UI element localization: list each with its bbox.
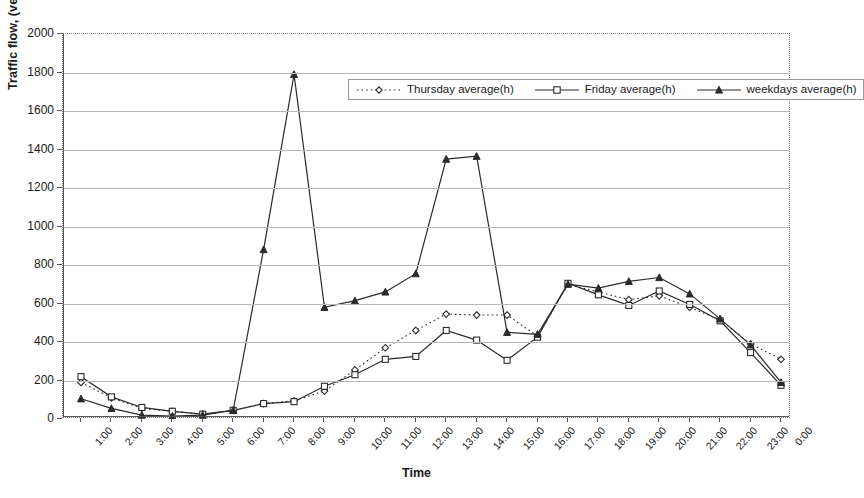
data-point	[443, 311, 450, 318]
y-tick-mark-400	[57, 341, 62, 342]
data-point	[382, 288, 389, 295]
x-tick-mark-17:00	[567, 418, 568, 422]
y-tick-mark-1600	[57, 110, 62, 111]
data-point	[778, 356, 785, 363]
x-tick-label-22:00: 22:00	[734, 425, 760, 452]
gridline-1000	[63, 227, 789, 228]
x-tick-label-9:00: 9:00	[336, 425, 358, 448]
legend-swatch-diamond-icon	[356, 84, 402, 96]
x-tick-mark-13:00	[445, 418, 446, 422]
legend-item-2: weekdays average(h)	[696, 83, 857, 96]
gridline-1600	[63, 111, 789, 112]
y-tick-label-0: 0	[10, 412, 54, 424]
y-tick-label-200: 200	[10, 374, 54, 386]
data-point	[78, 395, 85, 402]
legend-swatch-triangle-icon	[696, 84, 742, 96]
x-tick-mark-0:00	[780, 418, 781, 422]
x-tick-label-2:00: 2:00	[123, 425, 145, 448]
data-point	[260, 246, 267, 253]
legend-swatch-square-icon	[534, 84, 580, 96]
y-tick-label-1600: 1600	[10, 104, 54, 116]
y-tick-mark-1200	[57, 187, 62, 188]
gridline-600	[63, 304, 789, 305]
data-point	[291, 399, 297, 405]
x-tick-mark-23:00	[750, 418, 751, 422]
data-point	[443, 327, 449, 333]
data-point	[413, 353, 419, 359]
x-tick-mark-21:00	[689, 418, 690, 422]
x-tick-label-23:00: 23:00	[764, 425, 790, 452]
x-tick-mark-4:00	[171, 418, 172, 422]
x-tick-mark-15:00	[506, 418, 507, 422]
chart-legend: Thursday average(h)Friday average(h)week…	[348, 79, 864, 100]
y-tick-mark-1000	[57, 226, 62, 227]
x-tick-label-20:00: 20:00	[673, 425, 699, 452]
x-tick-mark-7:00	[263, 418, 264, 422]
x-axis-title: Time	[0, 466, 833, 480]
x-tick-label-13:00: 13:00	[460, 425, 486, 452]
x-tick-label-16:00: 16:00	[551, 425, 577, 452]
y-tick-label-600: 600	[10, 297, 54, 309]
y-tick-label-2000: 2000	[10, 27, 54, 39]
x-tick-mark-6:00	[232, 418, 233, 422]
x-tick-mark-10:00	[354, 418, 355, 422]
x-tick-mark-5:00	[202, 418, 203, 422]
x-tick-mark-12:00	[415, 418, 416, 422]
x-tick-label-14:00: 14:00	[490, 425, 516, 452]
data-point	[473, 312, 480, 319]
y-tick-label-1800: 1800	[10, 66, 54, 78]
gridline-1400	[63, 150, 789, 151]
y-tick-label-400: 400	[10, 335, 54, 347]
x-tick-mark-2:00	[110, 418, 111, 422]
y-tick-label-1000: 1000	[10, 220, 54, 232]
x-tick-mark-20:00	[658, 418, 659, 422]
gridline-200	[63, 381, 789, 382]
data-point	[382, 356, 388, 362]
x-tick-label-15:00: 15:00	[521, 425, 547, 452]
y-tick-mark-200	[57, 380, 62, 381]
x-tick-label-10:00: 10:00	[369, 425, 395, 452]
y-tick-label-1400: 1400	[10, 143, 54, 155]
y-tick-mark-600	[57, 303, 62, 304]
legend-label: Thursday average(h)	[407, 83, 514, 96]
data-point	[321, 383, 327, 389]
y-axis-line	[63, 34, 64, 417]
x-tick-label-11:00: 11:00	[399, 425, 424, 451]
x-tick-label-19:00: 19:00	[643, 425, 669, 452]
data-point	[656, 288, 662, 294]
x-tick-mark-8:00	[293, 418, 294, 422]
x-tick-label-8:00: 8:00	[306, 425, 328, 448]
x-tick-mark-11:00	[384, 418, 385, 422]
x-tick-mark-22:00	[719, 418, 720, 422]
y-tick-mark-1400	[57, 149, 62, 150]
gridline-400	[63, 342, 789, 343]
x-tick-mark-9:00	[323, 418, 324, 422]
x-tick-mark-16:00	[537, 418, 538, 422]
data-point	[748, 350, 754, 356]
x-tick-label-5:00: 5:00	[214, 425, 236, 448]
data-point	[78, 374, 84, 380]
x-tick-mark-3:00	[141, 418, 142, 422]
x-tick-label-0:00: 0:00	[793, 425, 815, 448]
plot-area: Thursday average(h)Friday average(h)week…	[62, 33, 790, 418]
x-tick-label-1:00: 1:00	[93, 425, 115, 448]
data-point	[595, 292, 601, 298]
x-axis-line	[63, 416, 789, 417]
legend-item-1: Friday average(h)	[534, 83, 676, 96]
data-point	[139, 404, 145, 410]
data-point	[686, 290, 693, 297]
x-tick-label-18:00: 18:00	[612, 425, 638, 452]
legend-label: Friday average(h)	[585, 83, 676, 96]
x-tick-mark-1:00	[80, 418, 81, 422]
data-point	[504, 357, 510, 363]
y-tick-mark-800	[57, 264, 62, 265]
series-friday-average-h-	[78, 280, 784, 417]
gridline-800	[63, 265, 789, 266]
legend-item-0: Thursday average(h)	[356, 83, 514, 96]
x-tick-label-7:00: 7:00	[275, 425, 297, 448]
data-point	[656, 274, 663, 281]
y-tick-mark-1800	[57, 72, 62, 73]
data-point	[412, 327, 419, 334]
x-tick-label-6:00: 6:00	[245, 425, 267, 448]
